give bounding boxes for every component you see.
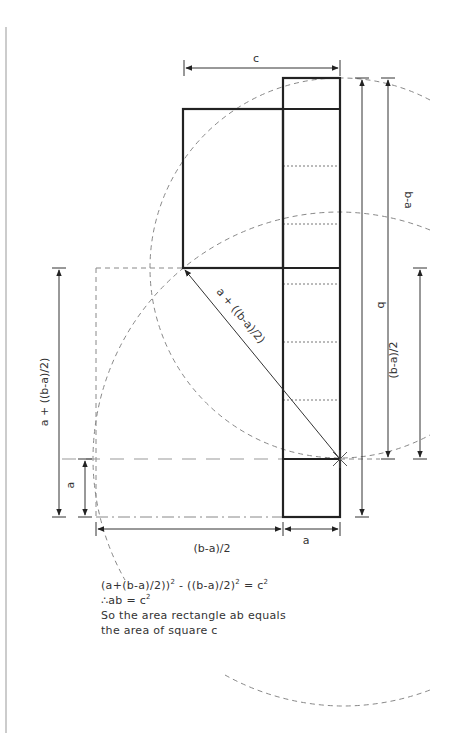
label-a-bottom: a (303, 534, 310, 547)
conclusion-line-1: So the area rectangle ab equals (101, 608, 286, 623)
label-a-left: a (64, 482, 77, 489)
square-c (183, 109, 283, 268)
label-half-bottom: (b-a)/2 (194, 542, 231, 555)
equation-line: (a+(b-a)/2))2 - ((b-a)/2)2 = c2 (101, 578, 286, 593)
conclusion-line-2: the area of square c (101, 623, 286, 638)
label-diagonal: a + ((b-a)/2) (214, 285, 268, 346)
construction-lines (62, 268, 380, 517)
therefore-line: ∴ab = c2 (101, 593, 286, 608)
rect-subdivisions (283, 166, 340, 400)
label-a-plus-half-left: a + ((b-a)/2) (38, 358, 51, 427)
main-shapes (183, 78, 340, 517)
caption: (a+(b-a)/2))2 - ((b-a)/2)2 = c2 ∴ab = c2… (101, 578, 286, 638)
dimension-arrows (52, 60, 427, 536)
label-c: c (253, 52, 259, 65)
dim-diagonal (185, 270, 340, 459)
rectangle-ab (283, 78, 340, 517)
label-b-minus-a: b-a (402, 191, 415, 209)
label-b: b (375, 302, 388, 309)
arc-bottom (225, 675, 430, 706)
label-half-right: (b-a)/2 (387, 342, 400, 379)
